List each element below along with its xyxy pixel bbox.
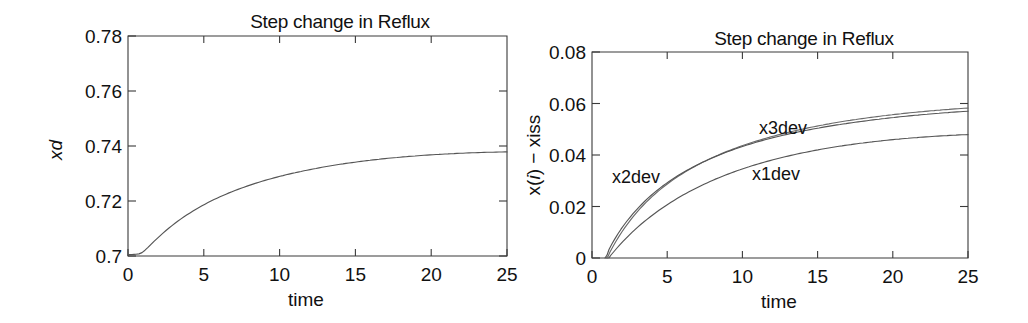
right-ytick-2: 0.04 — [549, 145, 586, 166]
right-y-ticks — [592, 52, 968, 258]
left-curve-xd — [128, 152, 507, 255]
right-ytick-3: 0.06 — [549, 94, 586, 115]
left-ytick-1: 0.72 — [85, 191, 122, 212]
right-xtick-2: 10 — [732, 266, 753, 287]
left-x-axis-title: time — [288, 289, 324, 310]
right-y-axis-title-part1: x( — [523, 179, 544, 196]
left-ytick-3: 0.76 — [85, 81, 122, 102]
right-xtick-0: 0 — [587, 266, 598, 287]
left-xtick-4: 20 — [421, 264, 442, 285]
left-ytick-2: 0.74 — [85, 136, 122, 157]
left-chart-svg: 0.7 0.72 0.74 0.76 0.78 0 5 10 15 20 25 … — [0, 0, 514, 323]
left-x-ticks — [128, 36, 507, 256]
left-plot-frame — [128, 36, 507, 256]
left-xtick-2: 10 — [269, 264, 290, 285]
right-plot-title: Step change in Reflux — [714, 28, 894, 49]
right-y-axis-title: x(i) − xiss — [523, 115, 544, 196]
right-ytick-0: 0 — [575, 248, 586, 269]
right-plot-frame — [592, 52, 968, 258]
right-xtick-4: 20 — [882, 266, 903, 287]
chart-panel-left: 0.7 0.72 0.74 0.76 0.78 0 5 10 15 20 25 … — [0, 0, 514, 323]
right-ytick-4: 0.08 — [549, 42, 586, 63]
left-ytick-0: 0.7 — [96, 246, 122, 267]
left-plot-title: Step change in Reflux — [250, 11, 430, 32]
chart-panel-right: 0 0.02 0.04 0.06 0.08 0 5 10 15 20 25 St… — [514, 0, 1028, 323]
right-ytick-1: 0.02 — [549, 197, 586, 218]
right-x-ticks — [592, 52, 968, 258]
annotation-x1dev: x1dev — [752, 164, 800, 184]
left-y-ticks — [128, 36, 507, 256]
annotation-x3dev: x3dev — [759, 118, 807, 138]
right-x-axis-title: time — [761, 291, 797, 312]
annotation-x2dev: x2dev — [612, 167, 660, 187]
left-xtick-0: 0 — [123, 264, 134, 285]
right-y-axis-title-part3: ) − xiss — [523, 115, 544, 176]
left-ytick-4: 0.78 — [85, 26, 122, 47]
right-curve-x1dev — [607, 135, 968, 258]
left-xtick-3: 15 — [345, 264, 366, 285]
right-xtick-5: 25 — [957, 266, 978, 287]
right-chart-svg: 0 0.02 0.04 0.06 0.08 0 5 10 15 20 25 St… — [514, 0, 1028, 323]
figure-container: 0.7 0.72 0.74 0.76 0.78 0 5 10 15 20 25 … — [0, 0, 1028, 323]
left-xtick-1: 5 — [199, 264, 210, 285]
left-y-axis-title: xd — [45, 139, 66, 162]
right-xtick-1: 5 — [662, 266, 673, 287]
right-xtick-3: 15 — [807, 266, 828, 287]
